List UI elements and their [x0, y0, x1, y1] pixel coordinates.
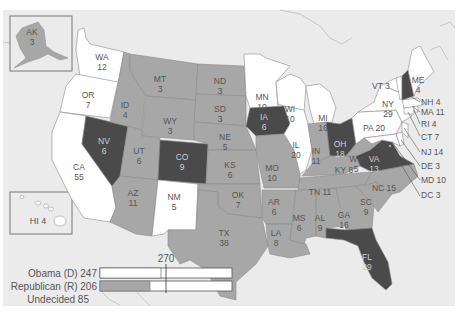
label-LA-ev: 8: [274, 238, 279, 248]
label-MO-name: MO: [265, 163, 279, 173]
label-ND-ev: 3: [218, 86, 223, 96]
obama-bar-fill: [100, 268, 161, 278]
label-NM-name: NM: [167, 192, 180, 202]
label-WY-ev: 3: [168, 126, 173, 136]
label-NM-ev: 5: [172, 202, 177, 212]
label-MA: MA 11: [421, 107, 445, 117]
hawaii-inset: HI 4: [10, 192, 72, 234]
label-WY-name: WY: [163, 116, 177, 126]
label-NY-ev: 29: [383, 109, 393, 119]
label-CT: CT 7: [421, 132, 440, 142]
label-OK-ev: 7: [236, 200, 241, 210]
label-KS-name: KS: [224, 160, 236, 170]
label-VA-ev: 13: [369, 164, 379, 174]
label-OH-name: OH: [334, 139, 347, 149]
label-MO-ev: 10: [267, 173, 277, 183]
label-CO-ev: 9: [180, 162, 185, 172]
alaska-inset: AK 3: [10, 16, 72, 71]
label-AR-ev: 6: [272, 207, 277, 217]
label-SC-ev: 9: [364, 207, 369, 217]
label-CA-name: CA: [73, 162, 85, 172]
label-VT: VT 3: [372, 81, 390, 91]
label-NV-ev: 6: [102, 146, 107, 156]
label-IA-name: IA: [260, 112, 268, 122]
label-NY-name: NY: [382, 99, 394, 109]
label-HI: HI 4: [30, 216, 47, 226]
label-MN-ev: 10: [257, 102, 267, 112]
label-ID-ev: 4: [123, 110, 128, 120]
republican-label: Republican (R) 206: [11, 281, 98, 292]
label-ND-name: ND: [214, 76, 226, 86]
label-IL-ev: 20: [291, 150, 301, 160]
label-UT-ev: 6: [137, 156, 142, 166]
obama-label: Obama (D) 247: [28, 268, 97, 279]
label-NJ: NJ 14: [421, 147, 443, 157]
label-CO-name: CO: [176, 152, 189, 162]
label-KS-ev: 6: [228, 170, 233, 180]
label-MI-name: MI: [318, 113, 327, 123]
label-NC: NC 15: [372, 183, 396, 193]
label-AK-name: AK: [26, 27, 38, 37]
label-TX-name: TX: [219, 228, 230, 238]
label-GA-name: GA: [338, 210, 351, 220]
label-NH: NH 4: [421, 97, 441, 107]
label-NV-name: NV: [98, 136, 110, 146]
label-MT-name: MT: [154, 74, 166, 84]
threshold-label: 270: [158, 253, 175, 264]
state-AR[interactable]: [262, 190, 296, 224]
label-MT-ev: 3: [158, 84, 163, 94]
label-IL-name: IL: [292, 140, 299, 150]
label-IA-ev: 6: [262, 122, 267, 132]
label-OR-name: OR: [82, 90, 95, 100]
label-WV-ev: 5: [354, 164, 359, 174]
label-WI-name: WI: [285, 104, 295, 114]
label-OK-name: OK: [232, 190, 245, 200]
label-GA-ev: 16: [339, 220, 349, 230]
label-KY: KY 8: [335, 165, 354, 175]
label-AZ-ev: 11: [129, 198, 138, 208]
label-DE: DE 3: [421, 161, 440, 171]
label-NE-name: NE: [219, 132, 231, 142]
label-SD-ev: 3: [218, 114, 223, 124]
label-MN-name: MN: [255, 92, 268, 102]
electoral-map: AK 3 HI 4: [0, 0, 461, 317]
label-IN-ev: 11: [312, 156, 321, 166]
label-RI: RI 4: [421, 119, 437, 129]
label-TN: TN 11: [309, 187, 332, 197]
label-AL-name: AL: [315, 213, 326, 223]
label-WA-ev: 12: [97, 62, 107, 72]
republican-bar-fill: [100, 281, 150, 291]
label-ID-name: ID: [121, 100, 130, 110]
label-MI-ev: 16: [318, 123, 328, 133]
label-WI-ev: 10: [285, 114, 295, 124]
label-ME-ev: 4: [416, 85, 421, 95]
label-MD: MD 10: [421, 175, 446, 185]
label-CA-ev: 55: [74, 172, 84, 182]
label-SD-name: SD: [214, 104, 226, 114]
label-NE-ev: 5: [223, 142, 228, 152]
label-UT-name: UT: [133, 146, 144, 156]
label-PA: PA 20: [363, 123, 385, 133]
label-IN-name: IN: [312, 146, 321, 156]
label-WA-name: WA: [95, 52, 109, 62]
label-MS-ev: 6: [297, 223, 302, 233]
label-LA-name: LA: [271, 228, 282, 238]
label-ME-name: ME: [412, 75, 425, 85]
label-WV-name: WV: [349, 154, 363, 164]
label-OH-ev: 18: [335, 149, 345, 159]
label-FL-name: FL: [362, 252, 372, 262]
undecided-label: Undecided 85: [27, 294, 89, 305]
label-TX-ev: 38: [219, 238, 229, 248]
label-MS-name: MS: [293, 213, 306, 223]
label-DC: DC 3: [421, 190, 441, 200]
label-AL-ev: 9: [318, 223, 323, 233]
label-SC-name: SC: [360, 197, 372, 207]
label-FL-ev: 29: [362, 262, 372, 272]
label-OR-ev: 7: [86, 100, 91, 110]
label-VA-name: VA: [369, 154, 380, 164]
label-AR-name: AR: [268, 197, 280, 207]
label-AZ-name: AZ: [128, 188, 139, 198]
label-AK-ev: 3: [30, 37, 35, 47]
